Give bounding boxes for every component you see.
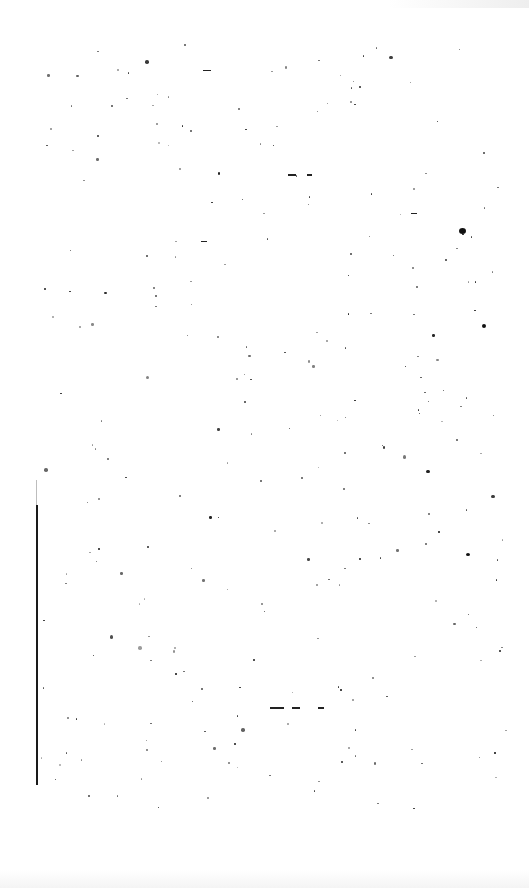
noise-speck: [146, 749, 148, 751]
noise-speck: [101, 420, 103, 422]
noise-speck: [502, 539, 504, 541]
noise-speck: [371, 193, 373, 195]
noise-speck: [480, 660, 482, 662]
noise-speck: [138, 646, 142, 650]
noise-speck: [207, 797, 209, 799]
noise-speck: [183, 671, 185, 673]
noise-speck: [139, 603, 141, 605]
noise-blob: [411, 213, 417, 214]
noise-speck: [424, 392, 426, 394]
noise-speck: [350, 101, 352, 103]
noise-speck: [71, 105, 73, 107]
noise-speck: [317, 111, 319, 113]
noise-speck: [354, 400, 356, 402]
noise-speck: [403, 455, 407, 459]
noise-speck: [377, 803, 379, 805]
noise-speck: [420, 377, 422, 379]
noise-speck: [158, 807, 160, 809]
noise-blob: [466, 553, 470, 556]
noise-speck: [476, 627, 478, 629]
noise-speck: [327, 103, 329, 105]
noise-speck: [436, 359, 439, 362]
noise-speck: [238, 108, 240, 110]
noise-speck: [492, 271, 494, 273]
noise-speck: [245, 129, 247, 131]
noise-speck: [432, 334, 435, 337]
noise-speck: [111, 105, 113, 107]
noise-speck: [211, 202, 213, 204]
noise-speck: [480, 453, 482, 455]
noise-speck: [174, 647, 176, 649]
noise-speck: [316, 332, 318, 334]
noise-speck: [110, 635, 114, 639]
noise-speck: [308, 204, 310, 206]
noise-speck: [93, 655, 95, 657]
noise-speck: [460, 406, 462, 408]
noise-speck: [307, 558, 310, 561]
noise-speck: [326, 340, 328, 342]
noise-speck: [89, 552, 91, 554]
noise-speck: [175, 256, 177, 258]
noise-speck: [428, 401, 430, 403]
noise-speck: [468, 614, 470, 616]
noise-speck: [491, 495, 495, 499]
noise-speck: [471, 236, 473, 238]
noise-speck: [393, 255, 395, 257]
noise-speck: [66, 752, 68, 754]
noise-speck: [260, 480, 262, 482]
noise-blob: [318, 707, 324, 709]
noise-speck: [301, 477, 303, 479]
noise-speck: [359, 86, 361, 88]
noise-speck: [505, 730, 507, 732]
noise-blob: [270, 707, 284, 709]
noise-speck: [148, 636, 150, 638]
noise-speck: [344, 452, 346, 454]
noise-speck: [44, 468, 48, 472]
noise-speck: [202, 579, 205, 582]
noise-speck: [466, 509, 468, 511]
noise-speck: [76, 718, 78, 720]
noise-speck: [157, 94, 159, 96]
noise-speck: [146, 255, 148, 257]
noise-speck: [250, 379, 252, 381]
noise-speck: [287, 723, 289, 725]
noise-speck: [66, 573, 68, 575]
noise-speck: [187, 335, 189, 337]
noise-speck: [494, 752, 496, 754]
noise-speck: [413, 808, 415, 810]
noise-speck: [218, 517, 220, 519]
noise-speck: [352, 699, 354, 701]
noise-speck: [318, 60, 320, 62]
noise-speck: [175, 241, 177, 243]
noise-speck: [328, 579, 330, 581]
noise-speck: [244, 401, 246, 403]
noise-speck: [87, 502, 89, 504]
noise-speck: [475, 281, 477, 283]
noise-speck: [150, 660, 152, 662]
noise-speck: [276, 126, 278, 128]
noise-speck: [499, 650, 501, 652]
noise-speck: [228, 762, 231, 765]
noise-blob: [292, 707, 300, 709]
noise-speck: [141, 778, 143, 780]
noise-speck: [318, 467, 320, 469]
noise-speck: [190, 130, 192, 132]
noise-speck: [285, 66, 288, 69]
noise-speck: [239, 687, 241, 689]
noise-speck: [418, 409, 420, 411]
noise-speck: [466, 397, 468, 399]
noise-speck: [419, 413, 421, 415]
noise-speck: [41, 757, 43, 759]
noise-speck: [46, 145, 48, 147]
noise-speck: [308, 360, 311, 363]
noise-speck: [253, 659, 255, 661]
noise-speck: [271, 71, 273, 73]
noise-speck: [126, 98, 128, 100]
noise-speck: [96, 158, 99, 161]
noise-speck: [400, 214, 402, 216]
noise-speck: [107, 458, 109, 460]
noise-speck: [59, 764, 61, 766]
noise-speck: [50, 128, 52, 130]
noise-speck: [441, 421, 443, 423]
noise-speck: [426, 470, 430, 474]
